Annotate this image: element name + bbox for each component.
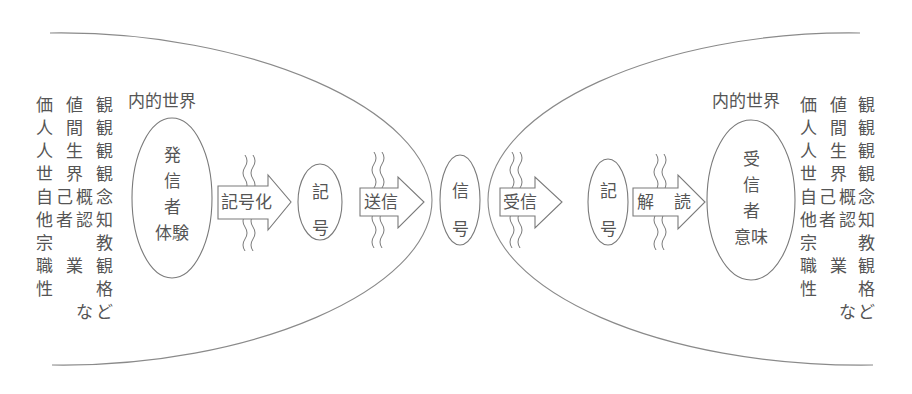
sender-value-char: 認	[76, 212, 93, 229]
sender-value-char: 値	[66, 97, 83, 114]
sender-value-char: 性	[36, 281, 53, 298]
receiver-value-char: 性	[800, 281, 817, 298]
receiver-label: 受 信 者 意味	[721, 146, 781, 250]
receiver-value-char: 観	[858, 120, 875, 137]
receiver-value-char: 己	[819, 189, 836, 206]
sender-value-char: 世	[36, 166, 53, 183]
receiver-value-char: 人	[800, 120, 817, 137]
receiver-value-char: 観	[858, 143, 875, 160]
receiver-value-char: 観	[858, 258, 875, 275]
receiver-value-char: 者	[819, 212, 836, 229]
sender-value-char: 人	[36, 143, 53, 160]
node-label-line: 号	[445, 210, 475, 248]
receiver-value-char: 人	[800, 143, 817, 160]
arrow-receive-label: 受信	[503, 194, 537, 211]
receiver-value-char: 知	[858, 212, 875, 229]
sender-value-char: ど	[96, 304, 113, 321]
sender-value-char: 観	[96, 97, 113, 114]
receiver-value-char: 教	[858, 235, 875, 252]
receiver-value-char: 他	[800, 212, 817, 229]
receiver-value-char: な	[839, 304, 856, 321]
sender-label-line: 信	[142, 168, 202, 194]
arrow-decode-label-right: 読	[674, 194, 691, 211]
sender-value-char: 界	[66, 166, 83, 183]
receiver-value-char: 世	[800, 166, 817, 183]
sender-value-char: 観	[96, 258, 113, 275]
arrow-transmit-label: 送信	[364, 194, 398, 211]
sender-value-char: 格	[96, 281, 113, 298]
sender-value-char: 観	[96, 166, 113, 183]
node-label-line: 号	[593, 210, 623, 248]
receiver-value-char: 概	[839, 189, 856, 206]
sign-node-left-label: 記 号	[305, 174, 335, 246]
sender-value-char: 己	[56, 189, 73, 206]
receiver-value-char: 自	[800, 189, 817, 206]
sender-value-char: 観	[96, 120, 113, 137]
sender-value-char: 教	[96, 235, 113, 252]
receiver-value-char: 宗	[800, 235, 817, 252]
receiver-value-char: 界	[830, 166, 847, 183]
sender-value-char: 念	[96, 189, 113, 206]
sender-label-line: 者	[142, 194, 202, 220]
sender-label-line: 体験	[142, 220, 202, 246]
signal-node-label: 信 号	[445, 172, 475, 248]
sender-value-char: 価	[36, 97, 53, 114]
sender-value-char: 自	[36, 189, 53, 206]
sender-inner-world-label: 内的世界	[128, 93, 196, 110]
sender-label-line: 発	[142, 142, 202, 168]
sender-value-char: 職	[36, 258, 53, 275]
sender-value-char: な	[76, 304, 93, 321]
sender-value-char: 宗	[36, 235, 53, 252]
receiver-value-char: 観	[858, 166, 875, 183]
receiver-value-char: ど	[858, 304, 875, 321]
sender-label: 発 信 者 体験	[142, 142, 202, 246]
arrow-decode-label-left: 解	[637, 194, 654, 211]
receiver-value-char: 間	[830, 120, 847, 137]
receiver-value-char: 認	[839, 212, 856, 229]
node-label-line: 記	[305, 174, 335, 210]
receiver-value-char: 念	[858, 189, 875, 206]
receiver-value-char: 値	[830, 97, 847, 114]
node-label-line: 号	[305, 210, 335, 246]
receiver-value-char: 職	[800, 258, 817, 275]
arrow-encode-label: 記号化	[221, 194, 272, 211]
sender-value-char: 概	[76, 189, 93, 206]
sender-value-char: 者	[56, 212, 73, 229]
node-label-line: 信	[445, 172, 475, 210]
sender-value-char: 観	[96, 143, 113, 160]
receiver-label-line: 受	[721, 146, 781, 172]
sender-value-char: 知	[96, 212, 113, 229]
receiver-value-char: 生	[830, 143, 847, 160]
sender-value-char: 生	[66, 143, 83, 160]
receiver-value-char: 格	[858, 281, 875, 298]
receiver-value-char: 観	[858, 97, 875, 114]
receiver-label-line: 者	[721, 198, 781, 224]
receiver-label-line: 意味	[721, 224, 781, 250]
node-label-line: 記	[593, 172, 623, 210]
receiver-label-line: 信	[721, 172, 781, 198]
sign-node-right-label: 記 号	[593, 172, 623, 248]
sender-value-char: 間	[66, 120, 83, 137]
receiver-value-char: 価	[800, 97, 817, 114]
receiver-inner-world-label: 内的世界	[712, 93, 780, 110]
sender-value-char: 人	[36, 120, 53, 137]
sender-value-char: 他	[36, 212, 53, 229]
receiver-value-char: 業	[830, 258, 847, 275]
sender-value-char: 業	[66, 258, 83, 275]
